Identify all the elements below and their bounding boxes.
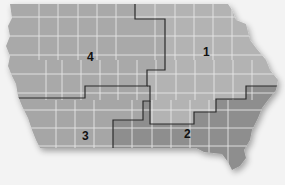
district-1-label: 1 bbox=[203, 46, 210, 58]
iowa-district-map bbox=[0, 0, 285, 185]
district-3-label: 3 bbox=[82, 130, 89, 142]
district-2-label: 2 bbox=[184, 128, 191, 140]
state-outline bbox=[0, 0, 285, 185]
district-4-label: 4 bbox=[87, 51, 94, 63]
